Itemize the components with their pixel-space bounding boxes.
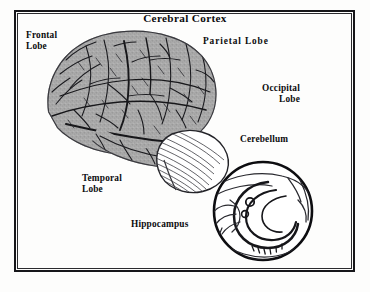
label-occipital-lobe: Occipital Lobe <box>238 83 300 104</box>
label-cerebellum: Cerebellum <box>240 134 288 145</box>
figure-frame <box>14 10 355 272</box>
label-parietal-lobe: Parietal Lobe <box>203 36 269 47</box>
label-temporal-lobe: Temporal Lobe <box>82 173 122 194</box>
label-frontal-lobe: Frontal Lobe <box>26 30 57 51</box>
figure-title: Cerebral Cortex <box>0 13 370 24</box>
brain-anatomy-figure: Cerebral Cortex Frontal Lobe Parietal Lo… <box>0 0 370 292</box>
label-hippocampus: Hippocampus <box>131 219 188 230</box>
